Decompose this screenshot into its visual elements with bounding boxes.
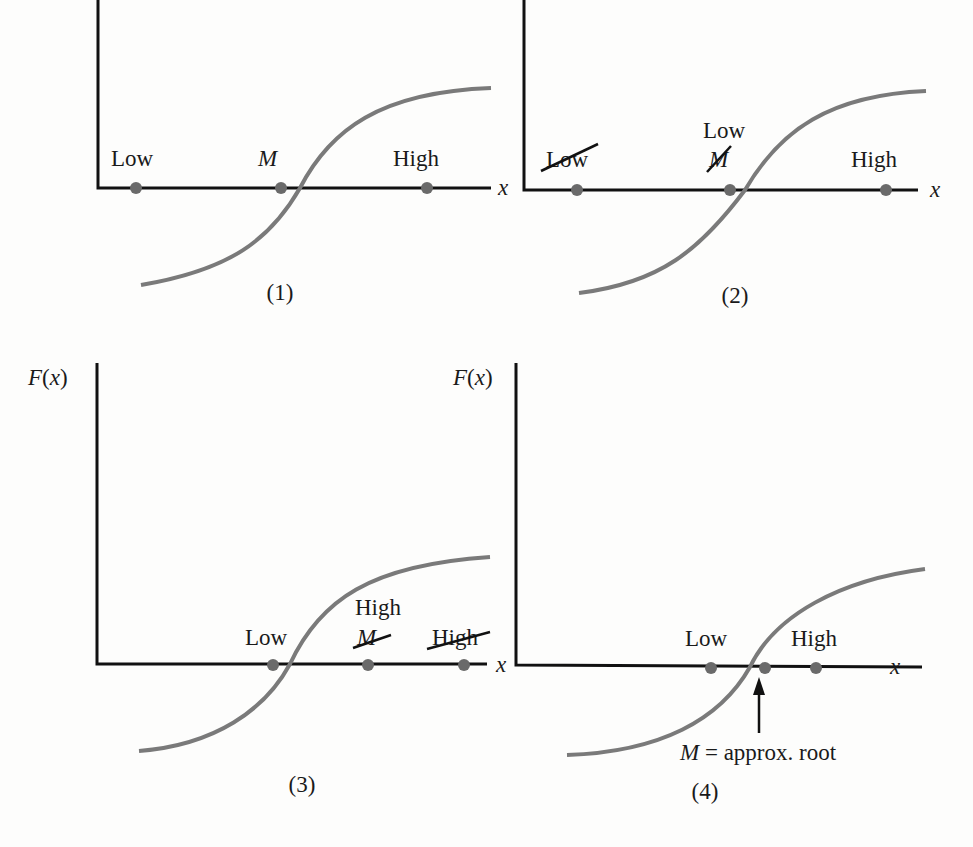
root-text: = approx. root (705, 740, 837, 765)
high-point (458, 659, 470, 671)
new-low-label: Low (703, 118, 746, 143)
low-label: Low (245, 625, 288, 650)
panel-2: Low M Low High x (2) (524, 0, 941, 308)
axes (97, 363, 487, 664)
high-point (810, 662, 822, 674)
mid-point (275, 182, 287, 194)
axes (516, 363, 922, 667)
high-label: High (393, 146, 440, 171)
y-axis-label: F(x) (452, 365, 493, 390)
function-curve (139, 557, 490, 751)
mid-point (362, 659, 374, 671)
panel-caption: (1) (267, 280, 294, 305)
bisection-method-figure: Low M High x (1) Low M Low High x (2) F(… (0, 0, 973, 847)
mid-point (724, 184, 736, 196)
panel-caption: (2) (722, 283, 749, 308)
panel-caption: (3) (289, 772, 316, 797)
m-label: M (257, 146, 279, 171)
low-point (705, 662, 717, 674)
panel-4: F(x) Low High x M = approx. root (4) (452, 363, 925, 804)
low-point (130, 182, 142, 194)
function-curve (579, 91, 926, 293)
low-label: Low (685, 626, 728, 651)
mid-point (759, 662, 771, 674)
high-point (421, 182, 433, 194)
x-axis-label: x (495, 652, 507, 677)
low-point (571, 184, 583, 196)
function-curve (567, 569, 925, 755)
x-axis-label: x (889, 654, 901, 679)
y-axis-label: F(x) (27, 365, 68, 390)
x-axis-label: x (929, 177, 941, 202)
panel-1: Low M High x (1) (98, 0, 509, 305)
new-high-label: High (355, 595, 402, 620)
high-label: High (851, 147, 898, 172)
low-point (267, 659, 279, 671)
low-label: Low (111, 146, 154, 171)
high-label: High (791, 626, 838, 651)
panel-3: F(x) Low M High High x (3) (27, 363, 507, 797)
high-point (880, 184, 892, 196)
arrow-icon (753, 677, 765, 733)
panel-caption: (4) (692, 779, 719, 804)
root-annotation: M = approx. root (679, 740, 837, 765)
root-var: M (679, 740, 701, 765)
x-axis-label: x (497, 175, 509, 200)
